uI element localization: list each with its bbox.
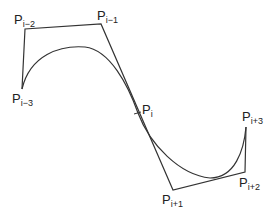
- diagram-canvas: [0, 0, 275, 213]
- label-p-i-2: Pi−2: [14, 13, 35, 29]
- label-p-i: Pi: [142, 103, 153, 119]
- label-p-i-1: Pi−1: [97, 9, 118, 25]
- label-p-i+2: Pi+2: [239, 176, 260, 192]
- spline-curve: [22, 47, 246, 178]
- label-p-i-3: Pi−3: [12, 92, 33, 108]
- spline-diagram: Pi−3 Pi−2 Pi−1 Pi Pi+1 Pi+2 Pi+3: [0, 0, 275, 213]
- control-polygon: [22, 24, 246, 190]
- label-p-i+3: Pi+3: [242, 110, 263, 126]
- label-p-i+1: Pi+1: [162, 193, 183, 209]
